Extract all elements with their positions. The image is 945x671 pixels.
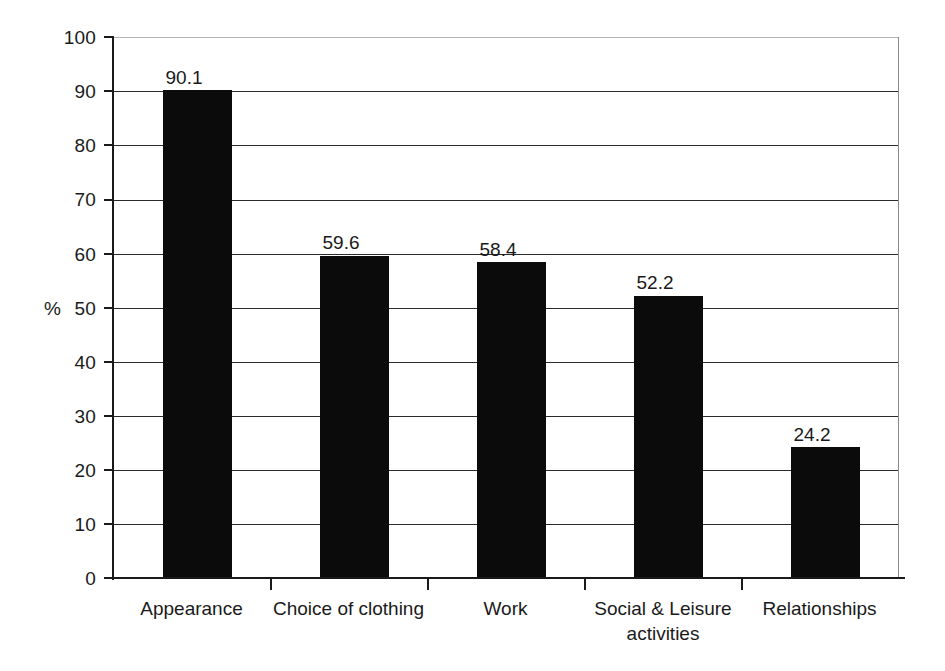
bar-work xyxy=(477,262,546,578)
plot-right-border xyxy=(898,37,899,578)
y-tick-label-70: 70 xyxy=(50,190,96,209)
x-axis-line xyxy=(104,577,905,579)
gridline-100 xyxy=(113,37,898,38)
y-tick-label-20: 20 xyxy=(50,461,96,480)
x-category-label-choice-of-clothing-line1: Choice of clothing xyxy=(260,596,437,621)
y-tick-label-40: 40 xyxy=(50,353,96,372)
x-category-label-social-leisure-line1: Social & Leisure xyxy=(578,596,748,621)
bar-value-work: 58.4 xyxy=(442,240,554,259)
y-axis-tick-labels: 100 90 80 70 60 50 40 30 20 10 0 xyxy=(46,0,96,671)
x-category-label-work-line1: Work xyxy=(427,596,584,621)
y-tick-label-100: 100 xyxy=(50,28,96,47)
y-tick-label-90: 90 xyxy=(50,82,96,101)
plot-area xyxy=(113,37,898,578)
y-axis-unit-label: % xyxy=(44,299,61,318)
x-tick-mark-3 xyxy=(584,579,586,590)
bar-relationships xyxy=(791,447,860,578)
x-category-label-choice-of-clothing: Choice of clothing xyxy=(260,596,437,621)
y-axis-line xyxy=(112,36,114,580)
x-tick-mark-2 xyxy=(427,579,429,590)
x-category-label-appearance: Appearance xyxy=(113,596,270,621)
x-category-label-work: Work xyxy=(427,596,584,621)
bar-choice-of-clothing xyxy=(320,256,389,579)
y-tick-label-30: 30 xyxy=(50,407,96,426)
y-tick-label-0: 0 xyxy=(50,569,96,588)
bar-value-relationships: 24.2 xyxy=(756,425,868,444)
x-category-label-social-leisure-line2: activities xyxy=(578,621,748,646)
bar-appearance xyxy=(163,90,232,578)
y-tick-label-60: 60 xyxy=(50,245,96,264)
x-category-label-social-leisure: Social & Leisure activities xyxy=(578,596,748,646)
bar-social-leisure xyxy=(634,296,703,578)
x-category-label-appearance-line1: Appearance xyxy=(113,596,270,621)
x-category-label-relationships-line1: Relationships xyxy=(741,596,898,621)
x-category-label-relationships: Relationships xyxy=(741,596,898,621)
bar-value-appearance: 90.1 xyxy=(128,68,240,87)
y-tick-label-80: 80 xyxy=(50,136,96,155)
bar-value-choice-of-clothing: 59.6 xyxy=(285,233,397,252)
x-tick-mark-1 xyxy=(270,579,272,590)
bar-chart-figure: 100 90 80 70 60 50 40 30 20 10 0 % xyxy=(0,0,945,671)
x-tick-mark-4 xyxy=(741,579,743,590)
y-tick-label-10: 10 xyxy=(50,515,96,534)
bar-value-social-leisure: 52.2 xyxy=(599,273,711,292)
